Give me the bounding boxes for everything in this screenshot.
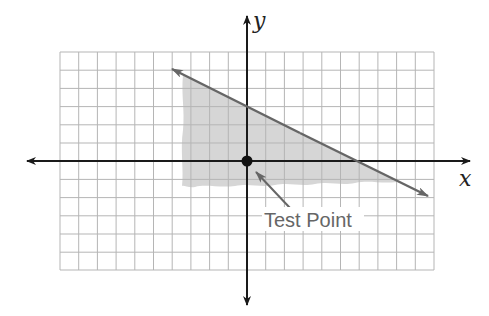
y-axis-label: y bbox=[252, 8, 266, 33]
x-axis-label: x bbox=[459, 166, 472, 191]
shaded-region bbox=[182, 75, 397, 187]
test-point-label: Test Point bbox=[264, 209, 352, 231]
inequality-graph: y x Test Point bbox=[0, 0, 489, 316]
test-point bbox=[242, 156, 253, 167]
